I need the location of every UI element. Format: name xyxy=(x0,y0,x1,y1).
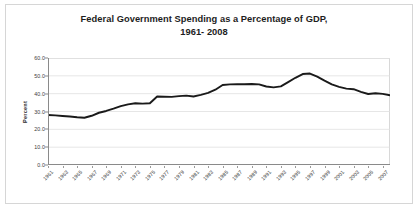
y-tick-mark xyxy=(45,75,48,76)
x-tick-mark xyxy=(48,166,49,168)
x-tick-label: 1993 xyxy=(275,169,288,182)
x-tick-label: 1991 xyxy=(260,169,273,182)
x-tick-label: 2005 xyxy=(362,169,375,182)
x-tick-label: 1989 xyxy=(245,169,258,182)
x-tick-label: 1973 xyxy=(129,169,142,182)
y-tick-label: 30.0 xyxy=(34,109,45,115)
x-tick-label: 1965 xyxy=(71,169,84,182)
y-tick-label: 60.0 xyxy=(34,55,45,61)
chart-figure: Federal Government Spending as a Percent… xyxy=(0,0,418,212)
x-tick-mark xyxy=(383,166,384,168)
x-tick-label: 1999 xyxy=(318,169,331,182)
x-tick-mark xyxy=(179,166,180,168)
x-tick-label: 1995 xyxy=(289,169,302,182)
x-tick-mark xyxy=(150,166,151,168)
x-tick-label: 1977 xyxy=(158,169,171,182)
y-tick-mark xyxy=(45,93,48,94)
x-tick-label: 1987 xyxy=(231,169,244,182)
x-tick-mark xyxy=(368,166,369,168)
x-tick-mark xyxy=(252,166,253,168)
y-tick-label: 10.0 xyxy=(34,144,45,150)
x-tick-mark xyxy=(237,166,238,168)
x-tick-group: 1961196319651967196919711973197519771979… xyxy=(48,166,390,206)
x-tick-label: 1975 xyxy=(144,169,157,182)
x-tick-mark xyxy=(325,166,326,168)
y-axis-title-label: Percent xyxy=(22,101,28,123)
y-axis-title: Percent xyxy=(20,58,30,165)
x-tick-mark xyxy=(63,166,64,168)
x-tick-mark xyxy=(295,166,296,168)
x-tick-label: 1983 xyxy=(202,169,215,182)
data-line-series xyxy=(48,58,390,165)
x-tick-label: 1979 xyxy=(173,169,186,182)
x-tick-mark xyxy=(310,166,311,168)
x-tick-mark xyxy=(354,166,355,168)
y-tick-mark xyxy=(45,129,48,130)
x-tick-label: 2001 xyxy=(333,169,346,182)
y-tick-label: 40.0 xyxy=(34,91,45,97)
x-tick-label: 1963 xyxy=(56,169,69,182)
x-tick-label: 1997 xyxy=(304,169,317,182)
y-tick-label: 50.0 xyxy=(34,73,45,79)
x-tick-mark xyxy=(106,166,107,168)
x-tick-mark xyxy=(135,166,136,168)
plot-area-wrapper: 0.010.020.030.040.050.060.0 xyxy=(48,58,390,165)
x-tick-label: 1985 xyxy=(216,169,229,182)
x-tick-label: 1969 xyxy=(100,169,113,182)
x-tick-mark xyxy=(164,166,165,168)
x-tick-label: 1981 xyxy=(187,169,200,182)
x-tick-label: 2007 xyxy=(376,169,389,182)
x-tick-mark xyxy=(208,166,209,168)
chart-title-line-1: Federal Government Spending as a Percent… xyxy=(18,13,390,26)
x-tick-mark xyxy=(194,166,195,168)
y-tick-label: 0.0 xyxy=(37,162,45,168)
y-tick-mark xyxy=(45,147,48,148)
y-tick-mark xyxy=(45,58,48,59)
x-tick-label: 1967 xyxy=(85,169,98,182)
x-tick-mark xyxy=(92,166,93,168)
chart-title: Federal Government Spending as a Percent… xyxy=(18,13,390,38)
x-tick-label: 1971 xyxy=(114,169,127,182)
x-tick-mark xyxy=(281,166,282,168)
x-tick-label: 2003 xyxy=(347,169,360,182)
x-tick-mark xyxy=(223,166,224,168)
y-tick-mark xyxy=(45,111,48,112)
data-line xyxy=(48,74,390,118)
x-tick-mark xyxy=(339,166,340,168)
x-tick-mark xyxy=(266,166,267,168)
x-tick-mark xyxy=(121,166,122,168)
chart-title-line-2: 1961- 2008 xyxy=(18,26,390,39)
y-axis-line xyxy=(48,58,49,165)
x-axis-line xyxy=(48,164,390,165)
x-tick-mark xyxy=(77,166,78,168)
y-tick-label: 20.0 xyxy=(34,126,45,132)
